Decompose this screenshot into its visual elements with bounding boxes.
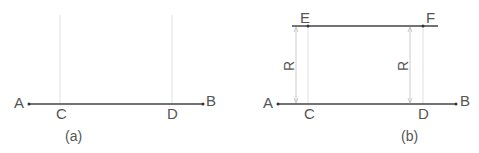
- label-f: F: [426, 9, 435, 26]
- point-b: [202, 103, 205, 106]
- dimension-label-right: R: [395, 61, 411, 71]
- point-f: [422, 25, 425, 28]
- label-d: D: [167, 105, 178, 122]
- caption-a: (a): [65, 128, 82, 144]
- label-c: C: [304, 105, 315, 122]
- label-e: E: [300, 9, 310, 26]
- label-a: A: [263, 94, 273, 111]
- label-b: B: [206, 92, 216, 109]
- label-a: A: [14, 94, 24, 111]
- label-c: C: [56, 105, 67, 122]
- label-b: B: [460, 92, 470, 109]
- point-a: [277, 103, 280, 106]
- caption-b: (b): [401, 128, 418, 144]
- figure-b: E F A B C D R R (b): [263, 9, 470, 144]
- label-d: D: [418, 105, 429, 122]
- point-a: [28, 103, 31, 106]
- figure-a: A B C D (a): [14, 15, 216, 144]
- diagram-canvas: A B C D (a) E: [0, 0, 479, 153]
- point-b: [455, 103, 458, 106]
- dimension-label-left: R: [281, 61, 297, 71]
